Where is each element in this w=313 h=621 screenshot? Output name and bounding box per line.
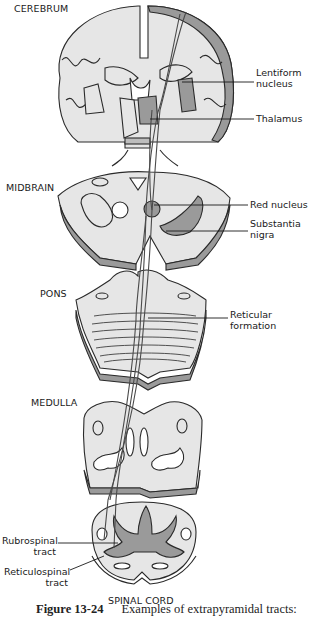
label-reticulospinal-tract: Reticulospinal tract [4,566,68,588]
label-line: Reticular [230,309,276,320]
label-line: Substantia [250,218,301,229]
section-label-medulla: MEDULLA [31,397,77,408]
label-line: nigra [250,229,301,240]
label-thalamus: Thalamus [256,113,302,124]
caption-text: Examples of extrapyramidal tracts: [121,602,296,616]
label-line: Lentiform [256,67,302,78]
label-red-nucleus: Red nucleus [250,199,308,210]
figure-number: Figure 13-24 [36,602,103,616]
label-reticular-formation: Reticular formation [230,309,276,331]
label-line: formation [230,320,276,331]
medulla-section [83,402,202,498]
cerebrum-section [59,6,234,148]
pons-section [76,270,206,390]
figure-caption: Figure 13-24Examples of extrapyramidal t… [36,602,297,617]
label-line: nucleus [256,78,302,89]
section-label-cerebrum: CEREBRUM [14,3,68,14]
label-line: Rubrospinal [2,535,56,546]
section-label-pons: PONS [40,288,67,299]
label-line: Reticulospinal [4,566,68,577]
label-line: tract [2,546,56,557]
label-line: tract [4,577,68,588]
label-substantia-nigra: Substantia nigra [250,218,301,240]
section-label-midbrain: MIDBRAIN [6,182,54,193]
label-rubrospinal-tract: Rubrospinal tract [2,535,56,557]
label-lentiform-nucleus: Lentiform nucleus [256,67,302,89]
